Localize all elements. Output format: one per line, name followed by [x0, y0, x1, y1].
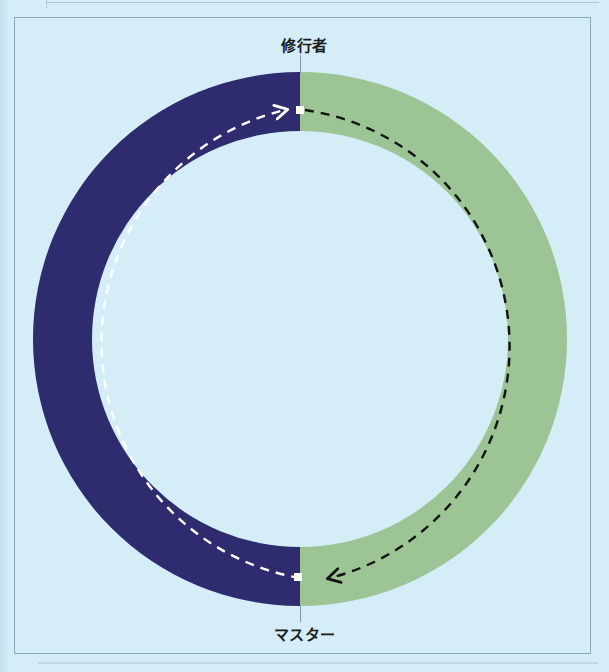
donut-chart-svg — [0, 0, 609, 672]
donut-chart — [0, 0, 609, 672]
donut-slice-green — [300, 72, 567, 606]
donut-slice-navy — [33, 72, 300, 606]
ring-label-top: 修行者 — [0, 34, 609, 55]
arc-start-cap-white — [294, 573, 302, 581]
ring-label-bottom: マスター — [0, 623, 609, 644]
leader-line-bottom — [300, 605, 301, 622]
arc-start-cap-black — [296, 106, 304, 114]
figure-page: 修行者 マスター — [0, 0, 609, 672]
leader-line-top — [300, 55, 301, 74]
